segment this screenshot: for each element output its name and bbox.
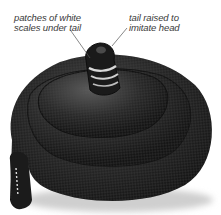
- annotation-tail-raised: tail raised to imitate head: [129, 13, 180, 33]
- snake-illustration: patches of white scales under tail tail …: [0, 0, 221, 215]
- leader-line-white-scales: [71, 31, 90, 58]
- annotation-line: scales under tail: [14, 23, 81, 33]
- annotation-white-scales: patches of white scales under tail: [14, 13, 81, 33]
- leader-line-tail-raised: [112, 28, 127, 46]
- tail-tip-highlight: [96, 47, 106, 54]
- annotation-line: imitate head: [129, 23, 180, 33]
